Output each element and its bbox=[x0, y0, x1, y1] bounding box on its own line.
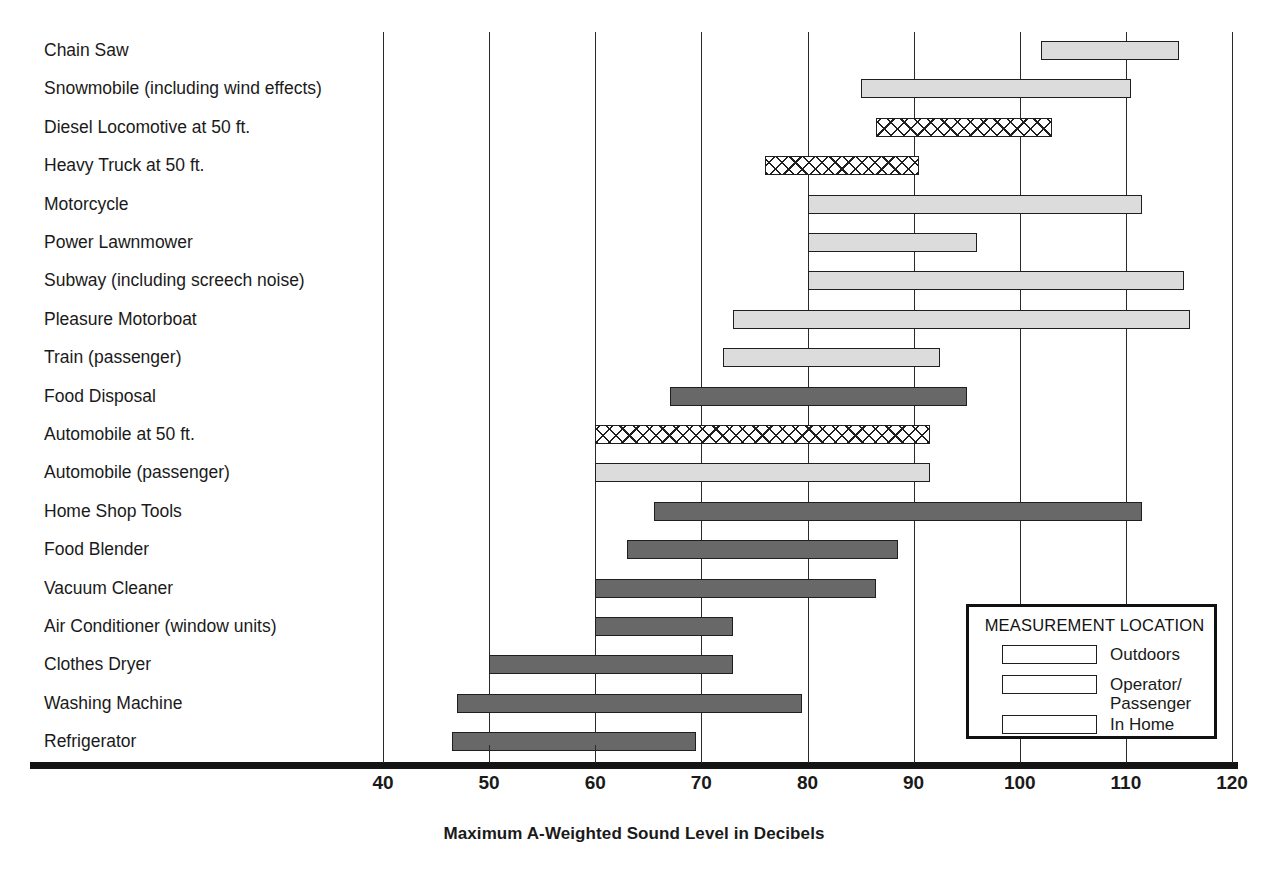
range-bar bbox=[808, 233, 978, 252]
legend-item-in-home: In Home bbox=[1002, 715, 1174, 734]
x-axis-line bbox=[30, 762, 1238, 769]
chart-row: Home Shop Tools bbox=[0, 493, 1268, 529]
range-bar bbox=[457, 694, 802, 713]
category-label: Pleasure Motorboat bbox=[44, 301, 197, 337]
range-bar bbox=[489, 655, 733, 674]
chart-row: Food Blender bbox=[0, 531, 1268, 567]
chart-row: Motorcycle bbox=[0, 186, 1268, 222]
x-axis-tick-label-80: 80 bbox=[778, 772, 838, 794]
chart-row: Chain Saw bbox=[0, 32, 1268, 68]
range-bar bbox=[808, 195, 1142, 214]
category-label: Heavy Truck at 50 ft. bbox=[44, 147, 204, 183]
range-bar bbox=[595, 617, 733, 636]
range-bar bbox=[861, 79, 1132, 98]
chart-row: Automobile (passenger) bbox=[0, 454, 1268, 490]
chart-row: Power Lawnmower bbox=[0, 224, 1268, 260]
category-label: Diesel Locomotive at 50 ft. bbox=[44, 109, 250, 145]
legend-label-in-home: In Home bbox=[1110, 715, 1174, 734]
x-axis-tick-label-50: 50 bbox=[459, 772, 519, 794]
range-bar bbox=[876, 118, 1051, 137]
range-bar bbox=[627, 540, 898, 559]
range-bar bbox=[595, 579, 876, 598]
category-label: Refrigerator bbox=[44, 723, 136, 759]
chart-row: Snowmobile (including wind effects) bbox=[0, 70, 1268, 106]
range-bar bbox=[1041, 41, 1179, 60]
x-axis-tick-label-120: 120 bbox=[1202, 772, 1262, 794]
category-label: Train (passenger) bbox=[44, 339, 181, 375]
range-bar bbox=[808, 271, 1185, 290]
legend-label-outdoors: Outdoors bbox=[1110, 645, 1180, 664]
sound-level-range-chart: Chain SawSnowmobile (including wind effe… bbox=[0, 0, 1268, 870]
x-axis-tick-label-60: 60 bbox=[565, 772, 625, 794]
chart-row: Food Disposal bbox=[0, 378, 1268, 414]
category-label: Food Disposal bbox=[44, 378, 156, 414]
range-bar bbox=[595, 463, 929, 482]
legend-swatch-outdoors-icon bbox=[1002, 645, 1097, 664]
category-label: Power Lawnmower bbox=[44, 224, 193, 260]
range-bar bbox=[765, 156, 919, 175]
category-label: Chain Saw bbox=[44, 32, 129, 68]
category-label: Washing Machine bbox=[44, 685, 182, 721]
chart-row: Automobile at 50 ft. bbox=[0, 416, 1268, 452]
x-axis-tick-80 bbox=[808, 745, 809, 763]
category-label: Subway (including screech noise) bbox=[44, 262, 305, 298]
chart-row: Train (passenger) bbox=[0, 339, 1268, 375]
x-axis-tick-label-40: 40 bbox=[353, 772, 413, 794]
x-axis-tick-label-70: 70 bbox=[671, 772, 731, 794]
legend-label-operator-passenger: Operator/ Passenger bbox=[1110, 675, 1191, 713]
category-label: Home Shop Tools bbox=[44, 493, 182, 529]
legend-item-operator-passenger: Operator/ Passenger bbox=[1002, 675, 1191, 713]
range-bar bbox=[670, 387, 967, 406]
category-label: Vacuum Cleaner bbox=[44, 570, 173, 606]
category-label: Motorcycle bbox=[44, 186, 129, 222]
range-bar bbox=[595, 425, 929, 444]
category-label: Food Blender bbox=[44, 531, 149, 567]
x-axis-tick-40 bbox=[383, 745, 384, 763]
x-axis-tick-label-100: 100 bbox=[990, 772, 1050, 794]
x-axis-tick-70 bbox=[701, 745, 702, 763]
x-axis-tick-100 bbox=[1020, 745, 1021, 763]
legend-swatch-operator-passenger-icon bbox=[1002, 675, 1097, 694]
category-label: Air Conditioner (window units) bbox=[44, 608, 276, 644]
legend-item-outdoors: Outdoors bbox=[1002, 645, 1180, 664]
legend-swatch-in-home-icon bbox=[1002, 715, 1097, 734]
category-label: Automobile at 50 ft. bbox=[44, 416, 195, 452]
x-axis-tick-120 bbox=[1232, 745, 1233, 763]
chart-row: Diesel Locomotive at 50 ft. bbox=[0, 109, 1268, 145]
chart-row: Subway (including screech noise) bbox=[0, 262, 1268, 298]
x-axis-title: Maximum A-Weighted Sound Level in Decibe… bbox=[0, 824, 1268, 844]
category-label: Snowmobile (including wind effects) bbox=[44, 70, 322, 106]
x-axis-tick-50 bbox=[489, 745, 490, 763]
x-axis-tick-90 bbox=[914, 745, 915, 763]
category-label: Automobile (passenger) bbox=[44, 454, 230, 490]
range-bar bbox=[654, 502, 1142, 521]
x-axis-tick-label-90: 90 bbox=[884, 772, 944, 794]
legend-title: MEASUREMENT LOCATION bbox=[969, 616, 1220, 635]
x-axis-tick-110 bbox=[1126, 745, 1127, 763]
chart-row: Pleasure Motorboat bbox=[0, 301, 1268, 337]
x-axis-tick-label-110: 110 bbox=[1096, 772, 1156, 794]
range-bar bbox=[733, 310, 1189, 329]
chart-row: Heavy Truck at 50 ft. bbox=[0, 147, 1268, 183]
legend-box: MEASUREMENT LOCATION Outdoors Operator/ … bbox=[966, 604, 1217, 739]
chart-row: Vacuum Cleaner bbox=[0, 570, 1268, 606]
range-bar bbox=[723, 348, 941, 367]
x-axis-tick-60 bbox=[595, 745, 596, 763]
category-label: Clothes Dryer bbox=[44, 646, 151, 682]
